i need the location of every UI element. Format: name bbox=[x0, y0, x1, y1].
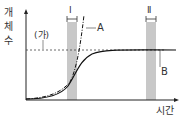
y-axis-label-3: 수 bbox=[4, 36, 13, 46]
x-axis-label: 시간 bbox=[156, 106, 174, 116]
growth-curve-diagram bbox=[0, 0, 187, 121]
dashed-line-label: (가) bbox=[34, 31, 49, 40]
y-axis-label-1: 개 bbox=[4, 8, 13, 18]
curve-A-label: A bbox=[97, 23, 104, 33]
curve-B-label: B bbox=[161, 67, 168, 77]
band-II bbox=[146, 22, 156, 100]
band-I bbox=[67, 22, 77, 100]
band-I-label: Ⅰ bbox=[69, 6, 72, 15]
y-axis-label-2: 체 bbox=[4, 22, 13, 32]
band-II-label: Ⅱ bbox=[147, 6, 151, 15]
